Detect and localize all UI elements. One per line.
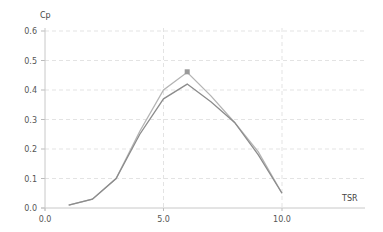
y-tick-label: 0.5 bbox=[24, 57, 37, 66]
peak-marker-icon bbox=[185, 69, 190, 74]
y-tick-label: 0.0 bbox=[24, 204, 37, 213]
x-axis-label: TSR bbox=[341, 194, 358, 203]
tick-labels: 0.00.10.20.30.40.50.60.05.010.0 bbox=[24, 27, 291, 224]
x-tick-label: 0.0 bbox=[39, 215, 52, 224]
cp-tsr-chart: 0.00.10.20.30.40.50.60.05.010.0 Cp TSR bbox=[0, 0, 383, 232]
y-tick-label: 0.6 bbox=[24, 27, 37, 36]
series-line-lower bbox=[69, 84, 282, 205]
y-tick-label: 0.3 bbox=[24, 116, 37, 125]
x-tick-label: 10.0 bbox=[273, 215, 291, 224]
grid-lines bbox=[45, 28, 365, 208]
x-tick-label: 5.0 bbox=[157, 215, 170, 224]
y-tick-label: 0.2 bbox=[24, 145, 37, 154]
y-axis-label: Cp bbox=[40, 11, 51, 20]
y-tick-label: 0.4 bbox=[24, 86, 37, 95]
y-tick-label: 0.1 bbox=[24, 175, 37, 184]
